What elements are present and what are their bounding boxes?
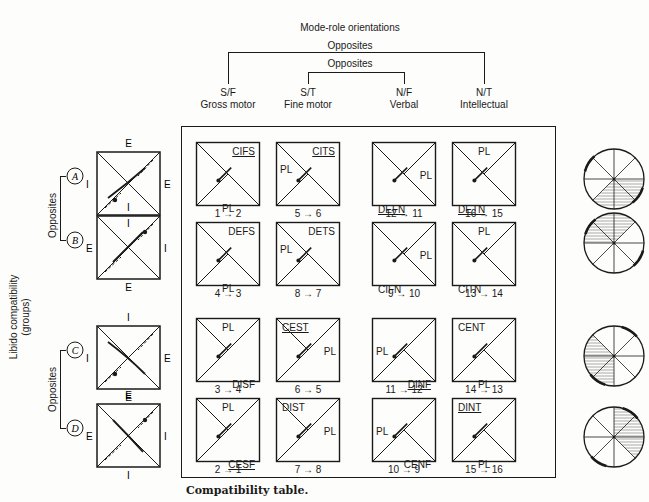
outer-bracket-right [484, 52, 485, 84]
cell-type-code: CENT [458, 322, 485, 333]
pl-label: PL [420, 250, 432, 261]
pl-label: PL [478, 146, 490, 157]
cell-type-code: CEST [282, 322, 309, 333]
group-a-circle: A [66, 167, 84, 185]
transition-label: 1 → 2 [196, 208, 260, 219]
svg-text:E: E [164, 353, 171, 364]
pl-label: PL [280, 244, 292, 255]
svg-text:B: B [72, 235, 78, 246]
svg-text:E: E [164, 179, 171, 190]
libido-compatibility-label: Libido compatibility (groups) [8, 257, 32, 377]
column-code: S/T [278, 87, 338, 99]
svg-text:A: A [71, 171, 79, 182]
bracket-ab [60, 176, 61, 240]
group-c-circle: C [66, 341, 84, 359]
header-title: Mode-role orientations [300, 22, 400, 33]
column-code: N/T [454, 87, 514, 99]
table-cell-citn: CITNPL13 → 14 [452, 222, 516, 300]
table-cell-cesf: CESFPL2 → 1 [196, 398, 260, 476]
cell-type-code: DIST [282, 402, 305, 413]
pl-label: PL [324, 426, 336, 437]
inner-bracket-right [404, 72, 405, 84]
transition-label: 8 → 7 [276, 288, 340, 299]
group-diagram-b: I E E I [83, 202, 174, 293]
cell-type-code: DINT [458, 402, 481, 413]
inner-bracket-top [308, 72, 404, 73]
group-d-circle: D [66, 419, 84, 437]
cell-type-code: DEFS [228, 226, 255, 237]
column-code: S/F [198, 87, 258, 99]
svg-text:I: I [86, 353, 89, 364]
table-cell-cest: CESTPL6 → 5 [276, 318, 340, 396]
orientation-pie-4 [582, 405, 646, 469]
transition-label: 2 → 1 [196, 464, 260, 475]
pl-label: PL [420, 170, 432, 181]
table-cell-cenf: CENFPL10 → 9 [372, 398, 436, 476]
orientation-pie-3 [582, 324, 646, 388]
group-diagram-d: E I E I [83, 390, 174, 481]
transition-label: 4 → 3 [196, 288, 260, 299]
transition-label: 12 → 11 [372, 208, 436, 219]
bracket-cd [60, 350, 61, 428]
table-cell-disf: DISFPL3 → 4 [196, 318, 260, 396]
column-header-st: S/T Fine motor [278, 87, 338, 111]
svg-text:I: I [127, 312, 130, 323]
column-header-nf: N/F Verbal [374, 87, 434, 111]
table-cell-cifn: CIFNPL9 → 10 [372, 222, 436, 300]
table-cell-dist: DISTPL7 → 8 [276, 398, 340, 476]
transition-label: 13 → 14 [452, 288, 516, 299]
column-name: Intellectual [454, 99, 514, 111]
transition-label: 6 → 5 [276, 384, 340, 395]
transition-label: 9 → 10 [372, 288, 436, 299]
opposites-ab-label: Opposites [47, 186, 58, 246]
column-header-sf: S/F Gross motor [198, 87, 258, 111]
inner-opposites-label: Opposites [310, 58, 390, 69]
table-cell-detn: DETNPL16 → 15 [452, 142, 516, 220]
svg-text:E: E [86, 431, 93, 442]
outer-bracket-top [228, 52, 484, 53]
table-cell-dint: DINTPL15 → 16 [452, 398, 516, 476]
svg-text:D: D [70, 423, 79, 434]
transition-label: 7 → 8 [276, 464, 340, 475]
axis-title-line2: (groups) [20, 257, 32, 377]
svg-text:E: E [125, 138, 132, 149]
transition-label: 5 → 6 [276, 208, 340, 219]
figure-caption: Compatibility table. [186, 484, 308, 497]
pl-label: PL [376, 346, 388, 357]
table-cell-dinf: DINFPL11 → 12 [372, 318, 436, 396]
svg-text:I: I [86, 179, 89, 190]
cell-type-code: DETS [308, 226, 335, 237]
inner-bracket-left [308, 72, 309, 84]
svg-text:E: E [125, 282, 132, 293]
svg-text:I: I [164, 431, 167, 442]
table-cell-dets: DETSPL8 → 7 [276, 222, 340, 300]
table-cell-defs: DEFSPL4 → 3 [196, 222, 260, 300]
table-cell-cits: CITSPL5 → 6 [276, 142, 340, 220]
column-name: Gross motor [198, 99, 258, 111]
svg-text:C: C [72, 345, 79, 356]
svg-text:E: E [86, 243, 93, 254]
transition-label: 11 → 12 [372, 384, 436, 395]
column-code: N/F [374, 87, 434, 99]
transition-label: 15 → 16 [452, 464, 516, 475]
svg-text:I: I [164, 243, 167, 254]
axis-title-line1: Libido compatibility [8, 257, 20, 377]
table-cell-cifs: CIFSPL1 → 2 [196, 142, 260, 220]
cell-type-code: CITS [312, 146, 335, 157]
table-cell-cent: CENTPL14 → 13 [452, 318, 516, 396]
svg-text:E: E [125, 390, 132, 401]
transition-label: 14 → 13 [452, 384, 516, 395]
table-cell-defn: DEFNPL12 → 11 [372, 142, 436, 220]
opposites-cd-label: Opposites [47, 360, 58, 420]
cell-type-code: CIFS [232, 146, 255, 157]
pl-label: PL [478, 226, 490, 237]
svg-text:I: I [127, 202, 130, 213]
transition-label: 16 → 15 [452, 208, 516, 219]
transition-label: 10 → 9 [372, 464, 436, 475]
outer-bracket-left [228, 52, 229, 84]
transition-label: 3 → 4 [196, 384, 260, 395]
svg-text:I: I [127, 470, 130, 481]
outer-opposites-label: Opposites [310, 40, 390, 51]
pl-label: PL [324, 346, 336, 357]
pl-label: PL [222, 402, 234, 413]
